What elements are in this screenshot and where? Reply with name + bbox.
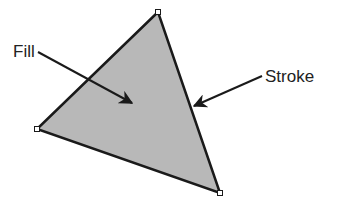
anchor-point-bottom-right[interactable] xyxy=(218,191,223,196)
anchor-point-left[interactable] xyxy=(35,127,40,132)
stroke-label: Stroke xyxy=(265,67,314,86)
fill-label: Fill xyxy=(13,42,35,61)
fill-stroke-diagram: Fill Stroke xyxy=(0,0,337,208)
anchor-point-top[interactable] xyxy=(156,10,161,15)
triangle-shape xyxy=(37,12,220,193)
stroke-arrow xyxy=(194,76,262,106)
